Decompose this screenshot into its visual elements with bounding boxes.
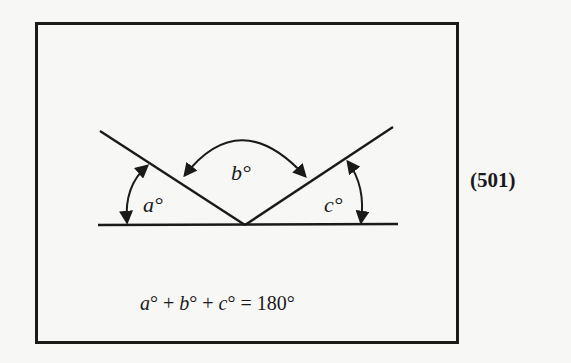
equation-number: (501) (470, 168, 516, 193)
angle-c-label: c° (324, 192, 343, 217)
left-ray (100, 131, 245, 225)
eq-plus-1: + (158, 292, 179, 314)
eq-total: 180° (257, 292, 295, 314)
angle-sum-equation: a° + b° + c° = 180° (140, 292, 295, 315)
right-ray (245, 127, 393, 225)
eq-b: b (179, 292, 189, 314)
eq-equals: = (235, 292, 256, 314)
angle-c-arc (348, 162, 362, 222)
eq-a: a (140, 292, 150, 314)
angle-b-label: b° (231, 160, 251, 185)
eq-deg-a: ° (150, 292, 158, 314)
eq-plus-2: + (197, 292, 218, 314)
angle-a-label: a° (143, 192, 163, 217)
